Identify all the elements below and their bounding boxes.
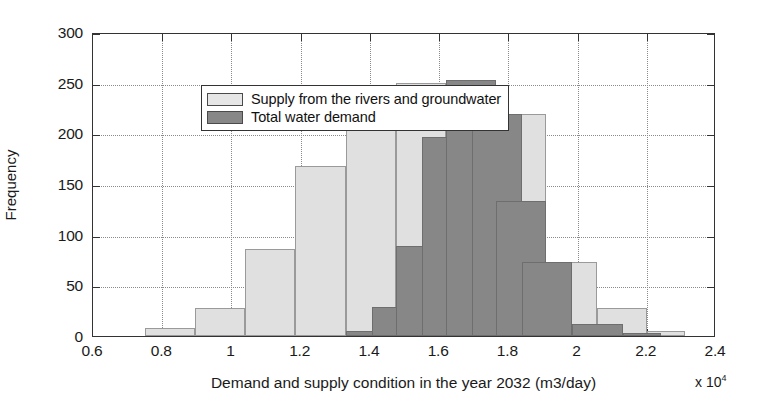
histogram-bar-demand <box>572 324 622 336</box>
plot-area: Supply from the rivers and groundwater T… <box>92 33 715 337</box>
y-axis-tick-label: 150 <box>58 176 83 194</box>
x-axis-tick <box>231 34 232 41</box>
y-axis-tick <box>93 135 100 136</box>
y-axis-title: Frequency <box>2 150 19 221</box>
histogram-bar-demand <box>623 333 661 336</box>
legend-label-demand: Total water demand <box>251 109 376 125</box>
y-axis-tick <box>707 135 714 136</box>
y-axis-tick <box>707 85 714 86</box>
x-axis-exponent-power: 4 <box>721 373 726 383</box>
x-axis-tick-label: 2.2 <box>635 342 656 360</box>
histogram-bar-supply <box>346 127 396 336</box>
histogram-bar-demand <box>522 262 572 336</box>
y-axis-tick-label: 100 <box>58 227 83 245</box>
y-axis-tick-label: 50 <box>66 277 83 295</box>
histogram-bar-supply <box>295 166 345 336</box>
x-axis-tick-label: 1.2 <box>289 342 310 360</box>
y-axis-tick-label: 200 <box>58 125 83 143</box>
x-axis-tick-label: 1.6 <box>428 342 449 360</box>
legend-item-demand: Total water demand <box>207 108 501 126</box>
x-axis-tick <box>508 34 509 41</box>
histogram-bars <box>93 34 714 336</box>
chart-legend: Supply from the rivers and groundwater T… <box>201 85 509 131</box>
legend-swatch-supply-icon <box>207 93 243 106</box>
x-axis-tick-label: 1.4 <box>358 342 379 360</box>
x-axis-exponent-prefix: x 10 <box>695 374 721 390</box>
y-axis-tick <box>93 237 100 238</box>
y-axis-tick <box>707 34 714 35</box>
x-axis-title: Demand and supply condition in the year … <box>92 374 715 392</box>
y-axis-tick-label: 300 <box>58 24 83 42</box>
histogram-bar-supply <box>145 328 195 336</box>
y-axis-tick-label: 250 <box>58 75 83 93</box>
histogram-bar-supply <box>245 249 295 336</box>
y-axis-tick <box>93 85 100 86</box>
x-axis-tick-label: 2.4 <box>705 342 726 360</box>
x-axis-tick <box>647 34 648 41</box>
x-axis-tick <box>370 34 371 41</box>
histogram-bar-supply <box>195 308 245 336</box>
y-axis-tick <box>707 287 714 288</box>
y-axis-tick <box>707 237 714 238</box>
chart-figure: Frequency 050100150200250300 Supply from… <box>0 0 767 405</box>
x-axis-tick <box>578 34 579 41</box>
legend-item-supply: Supply from the rivers and groundwater <box>207 90 501 108</box>
legend-label-supply: Supply from the rivers and groundwater <box>251 91 501 107</box>
x-axis-tick <box>439 34 440 41</box>
y-axis-tick <box>93 287 100 288</box>
x-axis-tick-label: 2 <box>572 342 580 360</box>
x-axis-tick-label: 0.8 <box>151 342 172 360</box>
x-axis-tick-label: 1.8 <box>497 342 518 360</box>
x-axis-tick-label: 1 <box>226 342 234 360</box>
legend-swatch-demand-icon <box>207 111 243 124</box>
y-axis-tick <box>93 186 100 187</box>
x-axis-tick-label: 0.6 <box>82 342 103 360</box>
y-axis-tick <box>707 186 714 187</box>
y-axis-tick <box>93 34 100 35</box>
x-axis-tick <box>301 34 302 41</box>
x-axis-exponent: x 104 <box>695 373 726 390</box>
x-axis-tick <box>162 34 163 41</box>
